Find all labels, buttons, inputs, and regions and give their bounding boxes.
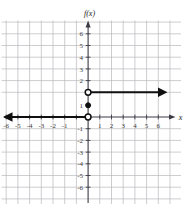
x-axis-arrow-icon <box>169 115 176 120</box>
x-tick-label: -4 <box>27 122 33 130</box>
y-tick-label: 2 <box>80 77 84 85</box>
closed-circle-point <box>86 103 91 108</box>
y-tick-label: -6 <box>77 184 83 192</box>
x-tick-label: 6 <box>157 122 161 130</box>
x-tick-label: -1 <box>62 122 68 130</box>
y-tick-label: 4 <box>80 54 84 62</box>
open-circle-upper <box>85 89 91 95</box>
x-tick-label: -2 <box>50 122 56 130</box>
right-ray-arrow-icon <box>158 88 168 97</box>
x-tick-label: -5 <box>15 122 21 130</box>
coordinate-plane-svg: -6 -5 -4 -3 -2 -1 1 2 3 4 5 6 6 5 4 3 2 … <box>0 0 187 209</box>
grid-lines <box>2 21 182 205</box>
x-tick-label: 1 <box>98 122 102 130</box>
x-tick-label: 3 <box>121 122 125 130</box>
left-ray-arrow-icon <box>3 112 13 121</box>
x-axis-label: x <box>178 113 183 122</box>
x-tick-label: -6 <box>3 122 9 130</box>
x-tick-label: 5 <box>145 122 149 130</box>
y-tick-label: 6 <box>80 30 84 38</box>
open-circle-origin <box>85 114 91 120</box>
y-tick-label: 1 <box>80 102 84 110</box>
y-tick-label: 5 <box>80 42 84 50</box>
y-axis-arrow-icon <box>86 21 91 28</box>
y-tick-label: -3 <box>77 149 83 157</box>
y-tick-label: -1 <box>77 125 83 133</box>
x-tick-label: -3 <box>38 122 44 130</box>
y-tick-label: -2 <box>77 137 83 145</box>
y-tick-label: -5 <box>77 172 83 180</box>
x-tick-label: 4 <box>133 122 137 130</box>
y-tick-label: -4 <box>77 160 83 168</box>
y-tick-label: 3 <box>80 66 84 74</box>
function-left-ray <box>3 112 88 121</box>
x-tick-label: 2 <box>110 122 114 130</box>
graph-figure: -6 -5 -4 -3 -2 -1 1 2 3 4 5 6 6 5 4 3 2 … <box>0 0 187 209</box>
function-label: f(x) <box>84 9 95 18</box>
y-tick-labels: 6 5 4 3 2 1 -1 -2 -3 -4 -5 -6 <box>77 30 83 191</box>
